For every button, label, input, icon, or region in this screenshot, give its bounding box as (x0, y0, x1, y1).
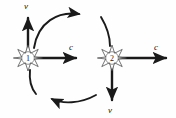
node1-lightspeed-label: c (69, 42, 73, 52)
arc-bottom-path (52, 95, 96, 102)
node-2-label: 2 (110, 54, 114, 63)
arc-bottom (52, 95, 96, 102)
node-1-star[interactable]: 1 (13, 45, 42, 71)
node2-velocity-label: v (108, 105, 112, 115)
node-1-label: 1 (26, 54, 30, 63)
node-2-star[interactable]: 2 (97, 45, 126, 71)
physics-diagram-svg: 1 2 v c c v (0, 0, 176, 118)
node1-velocity-label: v (24, 1, 28, 11)
arc-top-right-tail (101, 17, 110, 46)
arc-bottom-left-tail (30, 70, 36, 94)
arc-top-right-tail-path (101, 17, 110, 46)
arc-bottom-left-tail-path (30, 70, 36, 94)
figure-container: 1 2 v c c v (0, 0, 176, 118)
node2-lightspeed-label: c (154, 42, 158, 52)
